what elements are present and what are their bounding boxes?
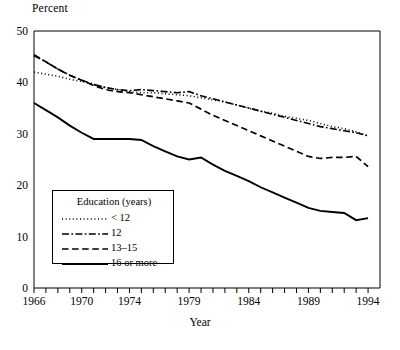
- y-tick-label: 20: [2, 179, 28, 191]
- legend-title: Education (years): [53, 196, 175, 207]
- x-tick-label: 1970: [59, 295, 105, 307]
- legend-item: 13–15: [53, 241, 175, 256]
- legend-label: 13–15: [111, 242, 137, 253]
- series-line-2: [34, 55, 368, 167]
- x-tick-label: 1966: [11, 295, 57, 307]
- legend-swatch-dashed: [62, 241, 108, 256]
- x-axis-title: Year: [0, 316, 400, 328]
- education-smoking-line-chart: Percent 01020304050 19661970197419791984…: [0, 0, 400, 350]
- x-tick-label: 1994: [345, 295, 391, 307]
- y-tick-label: 50: [2, 25, 28, 37]
- series-line-1: [34, 56, 368, 136]
- legend-label: 16 or more: [111, 257, 157, 268]
- y-tick-label: 10: [2, 231, 28, 243]
- x-axis-ticks: [34, 288, 368, 293]
- x-tick-label: 1974: [106, 295, 152, 307]
- legend-item: < 12: [53, 211, 175, 226]
- legend-item: 16 or more: [53, 256, 175, 271]
- y-tick-label: 0: [2, 282, 28, 294]
- legend: Education (years) < 121213–1516 or more: [52, 190, 174, 264]
- legend-swatch-solid: [62, 256, 108, 271]
- legend-label: 12: [111, 227, 122, 238]
- y-tick-label: 40: [2, 76, 28, 88]
- legend-swatch-dotted: [62, 211, 108, 226]
- legend-item: 12: [53, 226, 175, 241]
- x-tick-label: 1989: [285, 295, 331, 307]
- legend-swatch-dashdot: [62, 226, 108, 241]
- y-tick-label: 30: [2, 128, 28, 140]
- x-tick-label: 1984: [226, 295, 272, 307]
- x-tick-label: 1979: [166, 295, 212, 307]
- legend-label: < 12: [111, 212, 130, 223]
